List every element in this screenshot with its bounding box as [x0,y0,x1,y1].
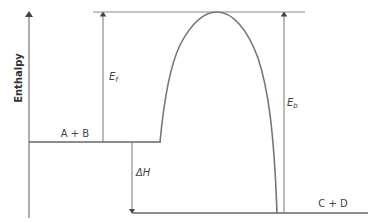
forward-activation-label: Ef [109,71,119,84]
products-label: C + D [318,198,348,209]
reaction-curve [160,12,277,213]
reactants-label: A + B [61,128,90,139]
backward-activation-label: Eb [287,97,298,110]
y-axis-label: Enthalpy [13,53,24,103]
enthalpy-change-label: ΔH [135,167,151,178]
energy-profile-diagram: Enthalpy A + B C + D Ef Eb ΔH [0,0,382,223]
